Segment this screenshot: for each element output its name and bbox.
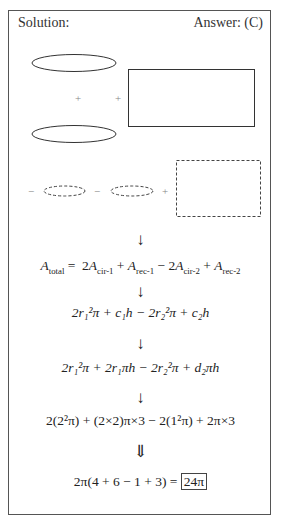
equation-step-4: 2(2²π) + (2×2)π×3 − 2(1²π) + 2π×3 bbox=[0, 413, 281, 429]
equation-area-total: Atotal = 2Acir-1 + Arec-1 − 2Acir-2 + Ar… bbox=[0, 258, 281, 274]
plus-operator-2: + bbox=[115, 93, 121, 104]
double-down-arrow-icon: ⇓ bbox=[0, 443, 281, 460]
rectangle-dashed bbox=[177, 161, 261, 217]
ellipse-dashed-2 bbox=[111, 186, 153, 196]
minus-operator-2: − bbox=[94, 186, 100, 197]
final-expression: 2π(4 + 6 − 1 + 3) = bbox=[74, 474, 178, 489]
ellipse-solid-top bbox=[32, 55, 116, 72]
plus-operator-1: + bbox=[75, 93, 81, 104]
plus-operator-3: + bbox=[162, 186, 168, 197]
minus-operator-1: − bbox=[28, 186, 34, 197]
down-arrow-icon: ↓ bbox=[0, 283, 281, 300]
down-arrow-icon: ↓ bbox=[0, 335, 281, 352]
area-diagram bbox=[0, 0, 281, 230]
equation-step-2: 2r₁²π + c₁h − 2r₂²π + c₂h bbox=[0, 305, 281, 321]
ellipse-solid-bottom bbox=[32, 126, 116, 143]
final-answer-box: 24π bbox=[181, 473, 207, 490]
ellipse-dashed-1 bbox=[44, 186, 85, 196]
down-arrow-icon: ↓ bbox=[0, 389, 281, 406]
rectangle-solid bbox=[129, 70, 255, 127]
equation-step-3: 2r₁²π + 2r₁πh − 2r₂²π + d₂πh bbox=[0, 360, 281, 376]
down-arrow-icon: ↓ bbox=[0, 231, 281, 248]
equation-final: 2π(4 + 6 − 1 + 3) = 24π bbox=[0, 474, 281, 490]
